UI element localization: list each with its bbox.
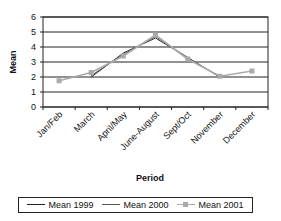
x-tick-label: March <box>72 109 97 134</box>
legend-item-mean-2001: Mean 2001 <box>177 200 243 210</box>
series-line <box>91 38 220 77</box>
x-tick-label: December <box>221 109 257 145</box>
data-point-marker <box>57 78 62 83</box>
y-tick-label: 5 <box>31 27 36 37</box>
legend-label: Mean 2000 <box>123 200 168 210</box>
legend-label: Mean 2001 <box>198 200 243 210</box>
legend-item-mean-2000: Mean 2000 <box>102 200 168 210</box>
x-tick-label: Sept/Oct <box>161 109 193 141</box>
x-tick-label: Jan/Feb <box>34 109 64 139</box>
y-tick-label: 4 <box>31 42 36 52</box>
x-axis-ticks: Jan/FebMarchApril/MayJune-AugustSept/Oct… <box>34 107 268 152</box>
y-tick-label: 3 <box>31 57 36 67</box>
data-point-marker <box>153 33 158 38</box>
chart-legend: Mean 1999 Mean 2000 Mean 2001 <box>18 197 253 213</box>
series-line <box>91 37 220 78</box>
series-line <box>59 35 252 81</box>
y-tick-label: 1 <box>31 87 36 97</box>
data-point-marker <box>217 74 222 79</box>
y-tick-label: 2 <box>31 72 36 82</box>
legend-label: Mean 1999 <box>48 200 93 210</box>
y-tick-label: 0 <box>31 102 36 112</box>
gridlines <box>43 17 268 107</box>
x-axis-title: Period <box>136 173 164 183</box>
legend-item-mean-1999: Mean 1999 <box>27 200 93 210</box>
data-point-marker <box>185 57 190 62</box>
data-series <box>57 33 255 84</box>
data-point-marker <box>249 69 254 74</box>
line-chart: 0123456 Jan/FebMarchApril/MayJune-August… <box>0 0 281 195</box>
y-axis-ticks: 0123456 <box>31 12 43 112</box>
line-marker-swatch-icon <box>177 202 195 208</box>
data-point-marker <box>89 70 94 75</box>
y-axis-title: Mean <box>8 50 18 73</box>
data-point-marker <box>121 54 126 59</box>
x-tick-label: November <box>189 109 225 145</box>
line-swatch-icon <box>27 202 45 208</box>
line-swatch-icon <box>102 202 120 208</box>
y-tick-label: 6 <box>31 12 36 22</box>
